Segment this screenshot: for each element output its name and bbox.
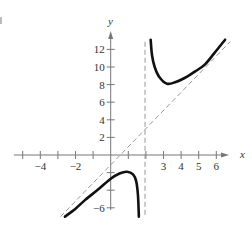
x-arrow-icon (221, 153, 229, 158)
x-tick-label: 6 (214, 160, 220, 172)
x-axis-label: x (239, 148, 245, 160)
y-axis (107, 31, 115, 210)
y-tick-label: 10 (94, 61, 106, 73)
y-tick-label: 4 (99, 114, 105, 126)
y-tick-label: 8 (99, 79, 105, 91)
y-tick-label: 6 (99, 96, 105, 108)
y-axis-label: y (107, 15, 113, 27)
y-tick-label: −6 (93, 202, 105, 214)
upper-branch-curve (151, 40, 225, 84)
x-tick-label: −4 (34, 160, 46, 172)
asymptotes (61, 40, 231, 217)
x-tick-label: 5 (196, 160, 202, 172)
x-tick-label: 3 (161, 160, 167, 172)
cropped-label-fragment (0, 17, 2, 24)
function-graph: −4−23456−624681012 x y (0, 0, 252, 249)
tick-labels: −4−23456−624681012 (34, 43, 219, 213)
y-tick-label: 12 (94, 43, 105, 55)
x-tick-label: −2 (70, 160, 82, 172)
x-tick-label: 4 (178, 160, 184, 172)
x-axis (14, 151, 229, 159)
y-tick-label: 2 (99, 131, 105, 143)
y-arrow-icon (108, 31, 113, 39)
